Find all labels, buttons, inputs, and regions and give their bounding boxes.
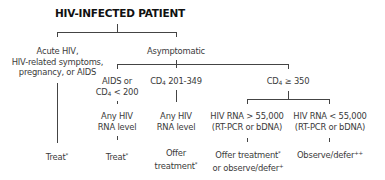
node-cd4-mid: CD4 201-349 [146,76,206,89]
connector [329,138,330,142]
connector [117,24,118,32]
node-any-rna-1: Any HIVRNA level [92,111,142,132]
outcome-observe-defer: Observe/defer++ [290,148,370,161]
connector [176,32,177,37]
connector [176,90,177,102]
connector [176,60,177,68]
connector [57,83,58,143]
node-aids-cd4-low: AIDS or CD4 < 200 [92,76,142,99]
page-title: HIV-INFECTED PATIENT [0,7,240,19]
node-rna-low: HIV RNA < 55,000(RT-PCR or bDNA) [289,111,371,132]
connector [57,32,177,33]
connector [288,91,289,99]
connector [247,138,248,142]
node-any-rna-2: Any HIVRNA level [150,111,202,132]
outcome-treat-acute: Treat* [27,150,87,163]
outcome-offer-or-observe: Offer treatment* or observe/defer+ [206,148,290,173]
node-acute: Acute HIV,HIV-related symptoms,pregnancy… [0,46,115,78]
outcome-offer-treatment: Offer treatment* [145,148,207,171]
node-cd4-high: CD4 ≥ 350 [258,76,318,89]
connector [247,99,330,100]
connector [57,32,58,37]
connector [247,99,248,104]
node-asymptomatic: Asymptomatic [136,46,216,57]
connector [288,64,289,69]
connector [117,64,118,69]
connector [329,99,330,104]
node-rna-high: HIV RNA > 55,000(RT-PCR or bDNA) [206,111,288,132]
connector [117,101,118,104]
connector [117,136,118,140]
outcome-treat-aids: Treat* [92,150,142,163]
connector [117,64,289,65]
